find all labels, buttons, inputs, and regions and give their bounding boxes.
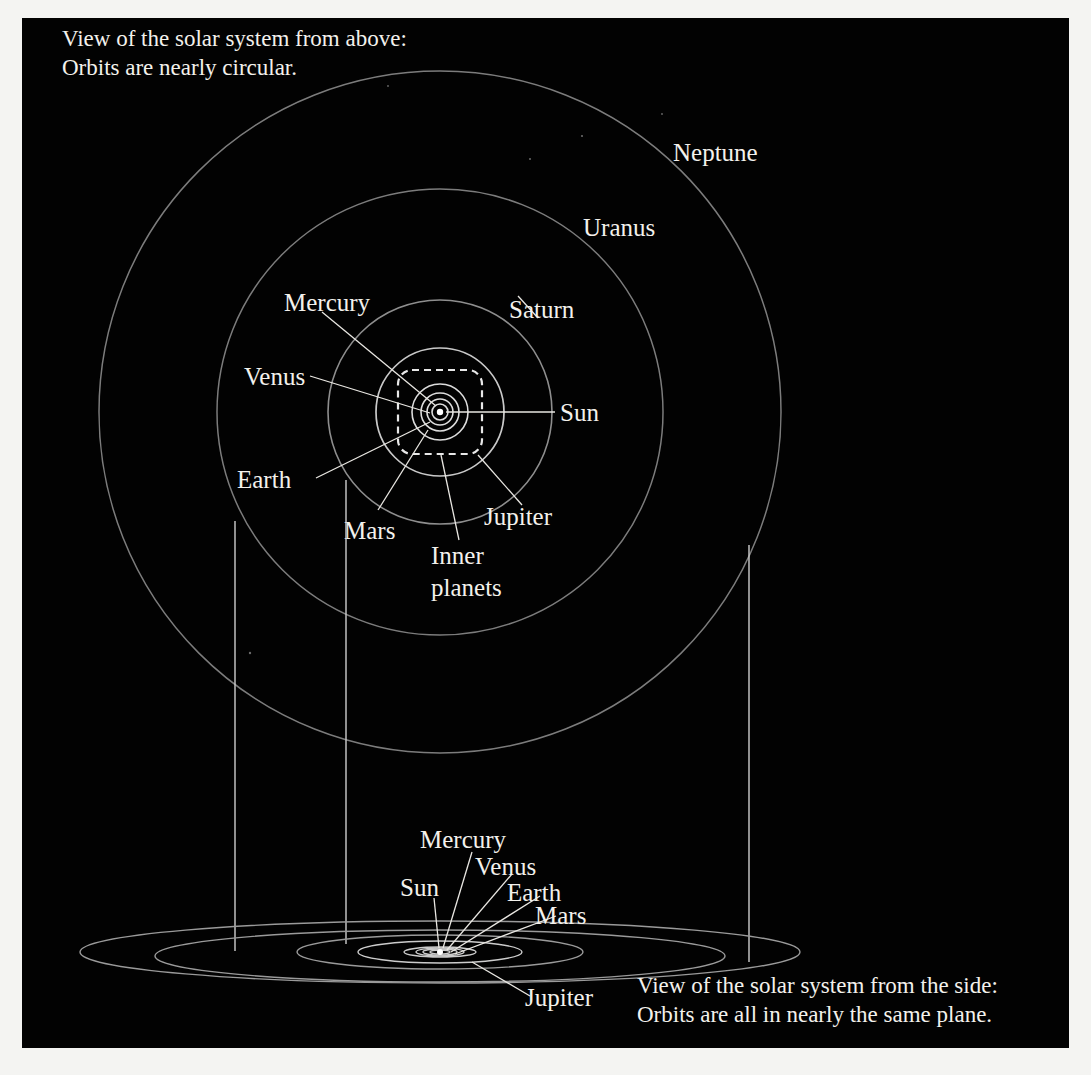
leader-mars-top xyxy=(378,430,428,510)
label-sun-top: Sun xyxy=(560,399,599,426)
side-view-caption: View of the solar system from the side: … xyxy=(637,973,998,1027)
label-jupiter-top: Jupiter xyxy=(484,503,553,530)
bottom-caption-line2: Orbits are all in nearly the same plane. xyxy=(637,1002,992,1027)
label-saturn-top: Saturn xyxy=(509,296,575,323)
label-mercury-top: Mercury xyxy=(284,289,371,316)
label-inner-planets-line2: planets xyxy=(431,574,502,601)
bottom-caption-line1: View of the solar system from the side: xyxy=(637,973,998,998)
sun-marker-top xyxy=(437,409,443,415)
leader-inner-planets xyxy=(441,455,459,540)
label-neptune-top: Neptune xyxy=(673,139,758,166)
view-connectors xyxy=(235,480,749,962)
label-mercury-side: Mercury xyxy=(420,826,507,853)
top-caption-line2: Orbits are nearly circular. xyxy=(62,55,297,80)
sun-marker-side xyxy=(437,949,443,955)
label-inner-planets-line1: Inner xyxy=(431,542,484,569)
top-view-orbits xyxy=(99,71,781,753)
label-mars-top: Mars xyxy=(344,517,395,544)
figure-root: Neptune Uranus Saturn Mercury Venus Sun … xyxy=(0,0,1091,1075)
label-sun-side: Sun xyxy=(400,874,439,901)
space-panel: Neptune Uranus Saturn Mercury Venus Sun … xyxy=(22,18,1069,1048)
leader-venus-side xyxy=(447,874,512,950)
top-view-labels: Neptune Uranus Saturn Mercury Venus Sun … xyxy=(237,139,758,601)
label-mars-side: Mars xyxy=(535,902,586,929)
solar-system-diagram: Neptune Uranus Saturn Mercury Venus Sun … xyxy=(22,18,1069,1048)
label-uranus-top: Uranus xyxy=(583,214,655,241)
leader-mercury-side xyxy=(443,852,472,948)
label-jupiter-side: Jupiter xyxy=(525,984,594,1011)
leader-jupiter-top xyxy=(478,455,522,505)
label-earth-top: Earth xyxy=(237,466,292,493)
label-venus-top: Venus xyxy=(244,363,305,390)
top-caption-line1: View of the solar system from above: xyxy=(62,26,407,51)
label-venus-side: Venus xyxy=(475,853,536,880)
top-view-caption: View of the solar system from above: Orb… xyxy=(62,26,407,80)
